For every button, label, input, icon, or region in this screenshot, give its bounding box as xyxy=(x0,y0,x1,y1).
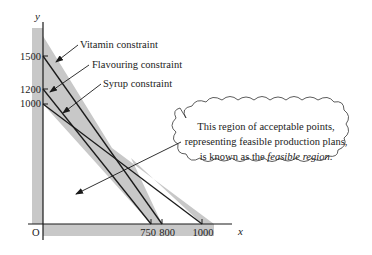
callout-line-1: This region of acceptable points, xyxy=(197,121,334,132)
callout-line-3: is known as the feasible region. xyxy=(200,151,333,162)
y-tick-label-1000: 1000 xyxy=(20,98,41,109)
syrup-constraint-label: Syrup constraint xyxy=(103,78,172,89)
x-tick-label-750: 750 xyxy=(140,227,156,238)
callout-line-3-c: . xyxy=(330,151,333,162)
origin-label: O xyxy=(32,227,40,238)
callout-line-2: representing feasible production plans, xyxy=(185,136,348,147)
vitamin-constraint-label: Vitamin constraint xyxy=(80,39,158,50)
y-axis-label: y xyxy=(34,10,40,22)
feasible-region-chart: y x O 1500 1200 1000 750 800 1000 Vitami… xyxy=(0,0,372,255)
callout-line-3-italic: feasible region xyxy=(267,151,329,162)
x-axis-shade xyxy=(43,224,214,236)
x-axis-label: x xyxy=(237,225,243,237)
callout-line-3-a: is known as the xyxy=(200,151,268,162)
x-tick-label-800: 800 xyxy=(159,227,175,238)
y-tick-label-1500: 1500 xyxy=(20,51,41,62)
x-tick-label-1000: 1000 xyxy=(193,227,214,238)
y-tick-label-1200: 1200 xyxy=(20,84,41,95)
flavouring-constraint-label: Flavouring constraint xyxy=(92,59,182,70)
vitamin-arrow-icon xyxy=(56,45,78,62)
flavouring-constraint-line xyxy=(43,89,151,224)
